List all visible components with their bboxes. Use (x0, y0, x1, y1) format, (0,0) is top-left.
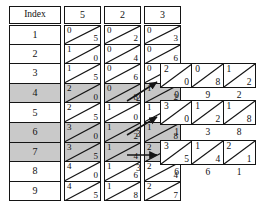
lattice-cell-ones: 2 (134, 34, 139, 43)
result-cell-tens: 0 (195, 64, 200, 74)
lattice-cell-tens: 1 (67, 64, 72, 73)
lattice-cell-ones: 5 (94, 34, 99, 43)
result-cell-ones: 5 (184, 154, 189, 164)
lattice-cell-tens: 1 (107, 123, 112, 132)
result-sum-digit: 8 (223, 128, 256, 138)
lattice-cell-tens: 2 (147, 162, 152, 171)
lattice-cell: 25 (64, 103, 101, 123)
lattice-cell-ones: 6 (174, 54, 179, 63)
lattice-cell: 06 (104, 64, 141, 84)
lattice-cell-tens: 1 (107, 182, 112, 191)
result-cell-tens: 3 (164, 101, 169, 111)
index-column-header: Index (9, 6, 61, 24)
lattice-cell: 10 (104, 103, 141, 123)
lattice-cell: 18 (104, 182, 141, 202)
result-cell-tens: 1 (195, 141, 200, 151)
lattice-cell-tens: 1 (147, 103, 152, 112)
lattice-cell-tens: 4 (67, 162, 72, 171)
lattice-cell-tens: 1 (147, 123, 152, 132)
result-cell-tens: 1 (227, 64, 232, 74)
result-cell-tens: 2 (164, 64, 169, 74)
result-cell-ones: 8 (216, 77, 221, 87)
result-sum-digit: 6 (191, 168, 224, 178)
lattice-cell-tens: 1 (67, 45, 72, 54)
lattice-cell: 45 (64, 182, 101, 202)
lattice-cell: 35 (64, 143, 101, 163)
lattice-cell-ones: 6 (134, 73, 139, 82)
result-cell-tens: 3 (164, 141, 169, 151)
result-cell-ones: 4 (216, 154, 221, 164)
result-lattice-cell: 30 (160, 100, 193, 125)
lattice-cell-tens: 0 (107, 64, 112, 73)
lattice-cell: 02 (104, 25, 141, 45)
lattice-cell-tens: 1 (107, 103, 112, 112)
multiplier-header-0: 5 (64, 6, 101, 24)
lattice-cell-tens: 2 (147, 143, 152, 152)
lattice-cell-ones: 0 (94, 54, 99, 63)
lattice-cell-tens: 0 (67, 26, 72, 35)
lattice-cell: 14 (104, 143, 141, 163)
lattice-cell: 03 (144, 25, 181, 45)
lattice-cell-ones: 0 (134, 113, 139, 122)
lattice-cell-tens: 0 (147, 26, 152, 35)
index-cell: 6 (9, 123, 61, 143)
lattice-cell-ones: 5 (94, 113, 99, 122)
lattice-cell-tens: 2 (67, 84, 72, 93)
result-lattice-cell: 12 (191, 100, 224, 125)
result-sum-digit: 6 (160, 168, 193, 178)
lattice-cell-tens: 0 (147, 64, 152, 73)
lattice-cell: 40 (64, 162, 101, 182)
lattice-cell: 15 (64, 64, 101, 84)
lattice-cell-tens: 0 (107, 45, 112, 54)
lattice-cell-ones: 0 (94, 93, 99, 102)
lattice-cell: 20 (64, 84, 101, 104)
lattice-cell-tens: 1 (107, 143, 112, 152)
index-cell: 4 (9, 84, 61, 104)
result-sum-digit: 1 (223, 168, 256, 178)
lattice-cell: 05 (64, 25, 101, 45)
lattice-cell-tens: 0 (147, 45, 152, 54)
index-cell: 2 (9, 45, 61, 65)
lattice-cell-tens: 3 (67, 143, 72, 152)
result-cell-ones: 2 (216, 114, 221, 124)
result-lattice-cell: 35 (160, 140, 193, 165)
index-cell: 1 (9, 25, 61, 45)
index-cell: 7 (9, 143, 61, 163)
lattice-cell-tens: 3 (67, 123, 72, 132)
lattice-cell-ones: 7 (174, 191, 179, 200)
result-lattice-cell: 18 (223, 100, 256, 125)
lattice-cell-tens: 0 (107, 84, 112, 93)
index-cell: 3 (9, 64, 61, 84)
lattice-cell: 27 (144, 182, 181, 202)
result-sum-digit: 3 (191, 128, 224, 138)
lattice-cell-ones: 4 (134, 152, 139, 161)
result-cell-ones: 2 (247, 77, 252, 87)
multiplier-header-2: 3 (144, 6, 181, 24)
index-cell: 9 (9, 182, 61, 202)
index-cell: 8 (9, 162, 61, 182)
lattice-cell-tens: 0 (107, 26, 112, 35)
result-cell-tens: 2 (227, 141, 232, 151)
result-cell-tens: 1 (227, 101, 232, 111)
result-cell-ones: 8 (247, 114, 252, 124)
lattice-cell-ones: 3 (174, 34, 179, 43)
lattice-cell: 10 (64, 45, 101, 65)
lattice-cell: 04 (104, 45, 141, 65)
lattice-cell-tens: 4 (67, 182, 72, 191)
lattice-cell-tens: 2 (67, 103, 72, 112)
arrow-label: 3 (136, 164, 141, 174)
index-cell: 5 (9, 103, 61, 123)
lattice-cell-tens: 1 (147, 84, 152, 93)
lattice-cell-ones: 5 (94, 152, 99, 161)
multiplier-header-1: 2 (104, 6, 141, 24)
result-cell-ones: 0 (184, 77, 189, 87)
lattice-cell-ones: 8 (134, 191, 139, 200)
lattice-multiplication-figure: Index 5 2 3 123456789 051015202530354045… (0, 0, 262, 210)
result-sum-digit: 1 (160, 128, 193, 138)
result-lattice-cell: 14 (191, 140, 224, 165)
result-cell-ones: 1 (247, 154, 252, 164)
lattice-cell: 06 (144, 45, 181, 65)
lattice-cell: 30 (64, 123, 101, 143)
result-lattice-cell: 21 (223, 140, 256, 165)
lattice-cell-tens: 1 (107, 162, 112, 171)
